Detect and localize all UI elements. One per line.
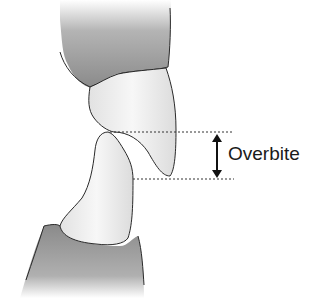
lower-incisor: [60, 132, 133, 245]
double-arrow-icon: [212, 134, 222, 178]
overbite-label: Overbite: [228, 144, 300, 163]
